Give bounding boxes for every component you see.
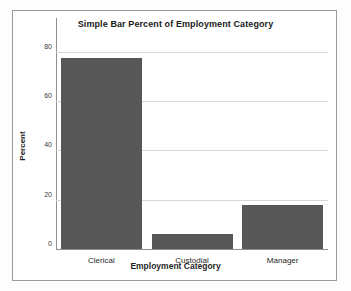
y-tick-label: 60 <box>44 92 52 99</box>
y-tick-label: 40 <box>44 141 52 148</box>
page-background: Simple Bar Percent of Employment Categor… <box>0 0 351 291</box>
y-axis-title: Percent <box>18 131 27 160</box>
y-tick-label: 80 <box>44 42 52 49</box>
y-axis-line <box>56 18 57 250</box>
x-axis-line <box>56 249 328 250</box>
chart-frame: Simple Bar Percent of Employment Categor… <box>12 10 337 281</box>
bar <box>242 205 323 249</box>
y-tick-label: 20 <box>44 190 52 197</box>
x-axis-title: Employment Category <box>13 261 338 271</box>
bar <box>152 234 233 249</box>
y-tick-label: 0 <box>48 240 52 247</box>
chart-title: Simple Bar Percent of Employment Categor… <box>13 19 338 29</box>
bar <box>61 58 142 249</box>
gridline <box>56 52 328 53</box>
plot-area: 020406080 ClericalCustodialManager <box>56 33 328 250</box>
